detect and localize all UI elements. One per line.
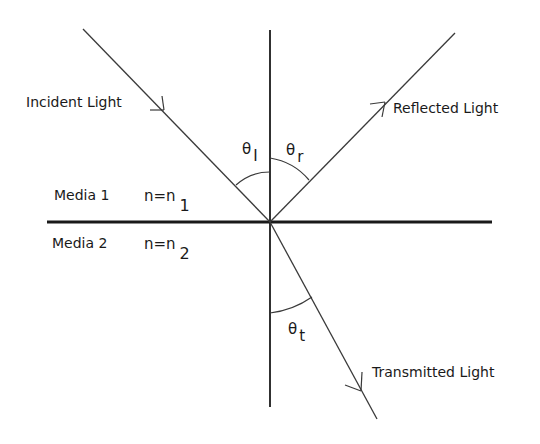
theta-reflection-label: θr xyxy=(286,143,303,158)
reflected-ray xyxy=(270,33,455,222)
transmitted-light-label: Transmitted Light xyxy=(372,365,494,379)
transmission-angle-arc xyxy=(270,297,312,313)
reflected-arrow-icon xyxy=(370,102,385,117)
n2-subscript: 2 xyxy=(180,244,190,263)
theta-incidence-label: θI xyxy=(242,142,258,157)
n1-prefix: n=n xyxy=(144,187,176,205)
reflected-light-label: Reflected Light xyxy=(393,101,498,115)
theta-i-subscript: I xyxy=(253,147,257,165)
refractive-index-2: n=n2 xyxy=(144,236,190,252)
theta-t-subscript: t xyxy=(299,327,305,345)
theta-transmission-label: θt xyxy=(288,322,305,337)
theta-symbol: θ xyxy=(242,140,251,158)
reflection-angle-arc xyxy=(270,158,309,180)
refractive-index-1: n=n1 xyxy=(144,188,190,204)
media-1-label: Media 1 xyxy=(54,188,109,202)
theta-symbol: θ xyxy=(286,141,295,159)
incident-light-label: Incident Light xyxy=(26,95,122,109)
n2-prefix: n=n xyxy=(144,235,176,253)
incidence-angle-arc xyxy=(236,172,270,185)
media-2-label: Media 2 xyxy=(52,236,107,250)
n1-subscript: 1 xyxy=(180,196,190,215)
theta-symbol: θ xyxy=(288,320,297,338)
theta-r-subscript: r xyxy=(297,148,303,166)
incident-arrow-icon xyxy=(150,96,164,110)
